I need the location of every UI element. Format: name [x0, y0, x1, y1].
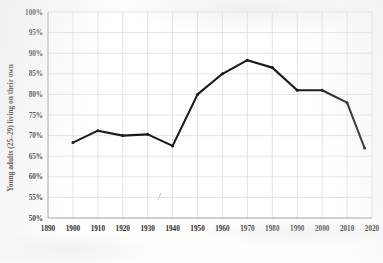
x-tick-label: 1920 — [116, 225, 131, 233]
x-tick-label: 1890 — [41, 225, 56, 233]
data-point — [271, 66, 274, 69]
data-point — [346, 101, 349, 104]
y-tick-label: 75% — [29, 112, 43, 120]
data-point — [221, 72, 224, 75]
chart-figure: 50%55%60%65%70%75%80%85%90%95%100% 18901… — [0, 0, 383, 263]
x-tick-label: 1990 — [290, 225, 305, 233]
y-tick-label: 50% — [29, 215, 43, 223]
x-tick-label: 1910 — [91, 225, 106, 233]
y-tick-label: 85% — [29, 70, 43, 78]
data-point — [96, 129, 99, 132]
y-tick-label: 100% — [25, 9, 43, 17]
x-tick-label: 2020 — [365, 225, 380, 233]
data-point — [246, 59, 249, 62]
y-axis-tick-labels: 50%55%60%65%70%75%80%85%90%95%100% — [25, 9, 43, 223]
data-point — [196, 93, 199, 96]
data-point — [321, 89, 324, 92]
x-tick-label: 2010 — [340, 225, 355, 233]
y-axis-title: Young adults (25–29) living on their own — [6, 64, 15, 192]
x-tick-label: 2000 — [315, 225, 330, 233]
x-tick-label: 1930 — [141, 225, 156, 233]
y-tick-label: 60% — [29, 173, 43, 181]
y-tick-label: 55% — [29, 194, 43, 202]
x-tick-label: 1970 — [240, 225, 255, 233]
x-axis-tick-labels: 1890190019101920193019401950196019701980… — [41, 225, 380, 233]
y-tick-label: 70% — [29, 132, 43, 140]
data-point — [146, 133, 149, 136]
x-tick-label: 1900 — [66, 225, 81, 233]
data-point — [121, 134, 124, 137]
line-chart: 50%55%60%65%70%75%80%85%90%95%100% 18901… — [0, 0, 383, 263]
data-point — [363, 146, 366, 149]
data-point — [71, 141, 74, 144]
x-tick-label: 1950 — [190, 225, 205, 233]
x-tick-label: 1980 — [265, 225, 280, 233]
y-tick-label: 95% — [29, 29, 43, 37]
y-tick-label: 65% — [29, 153, 43, 161]
y-tick-label: 90% — [29, 50, 43, 58]
data-point — [171, 144, 174, 147]
x-tick-label: 1960 — [215, 225, 230, 233]
x-tick-label: 1940 — [165, 225, 180, 233]
data-point — [296, 89, 299, 92]
y-tick-label: 80% — [29, 91, 43, 99]
